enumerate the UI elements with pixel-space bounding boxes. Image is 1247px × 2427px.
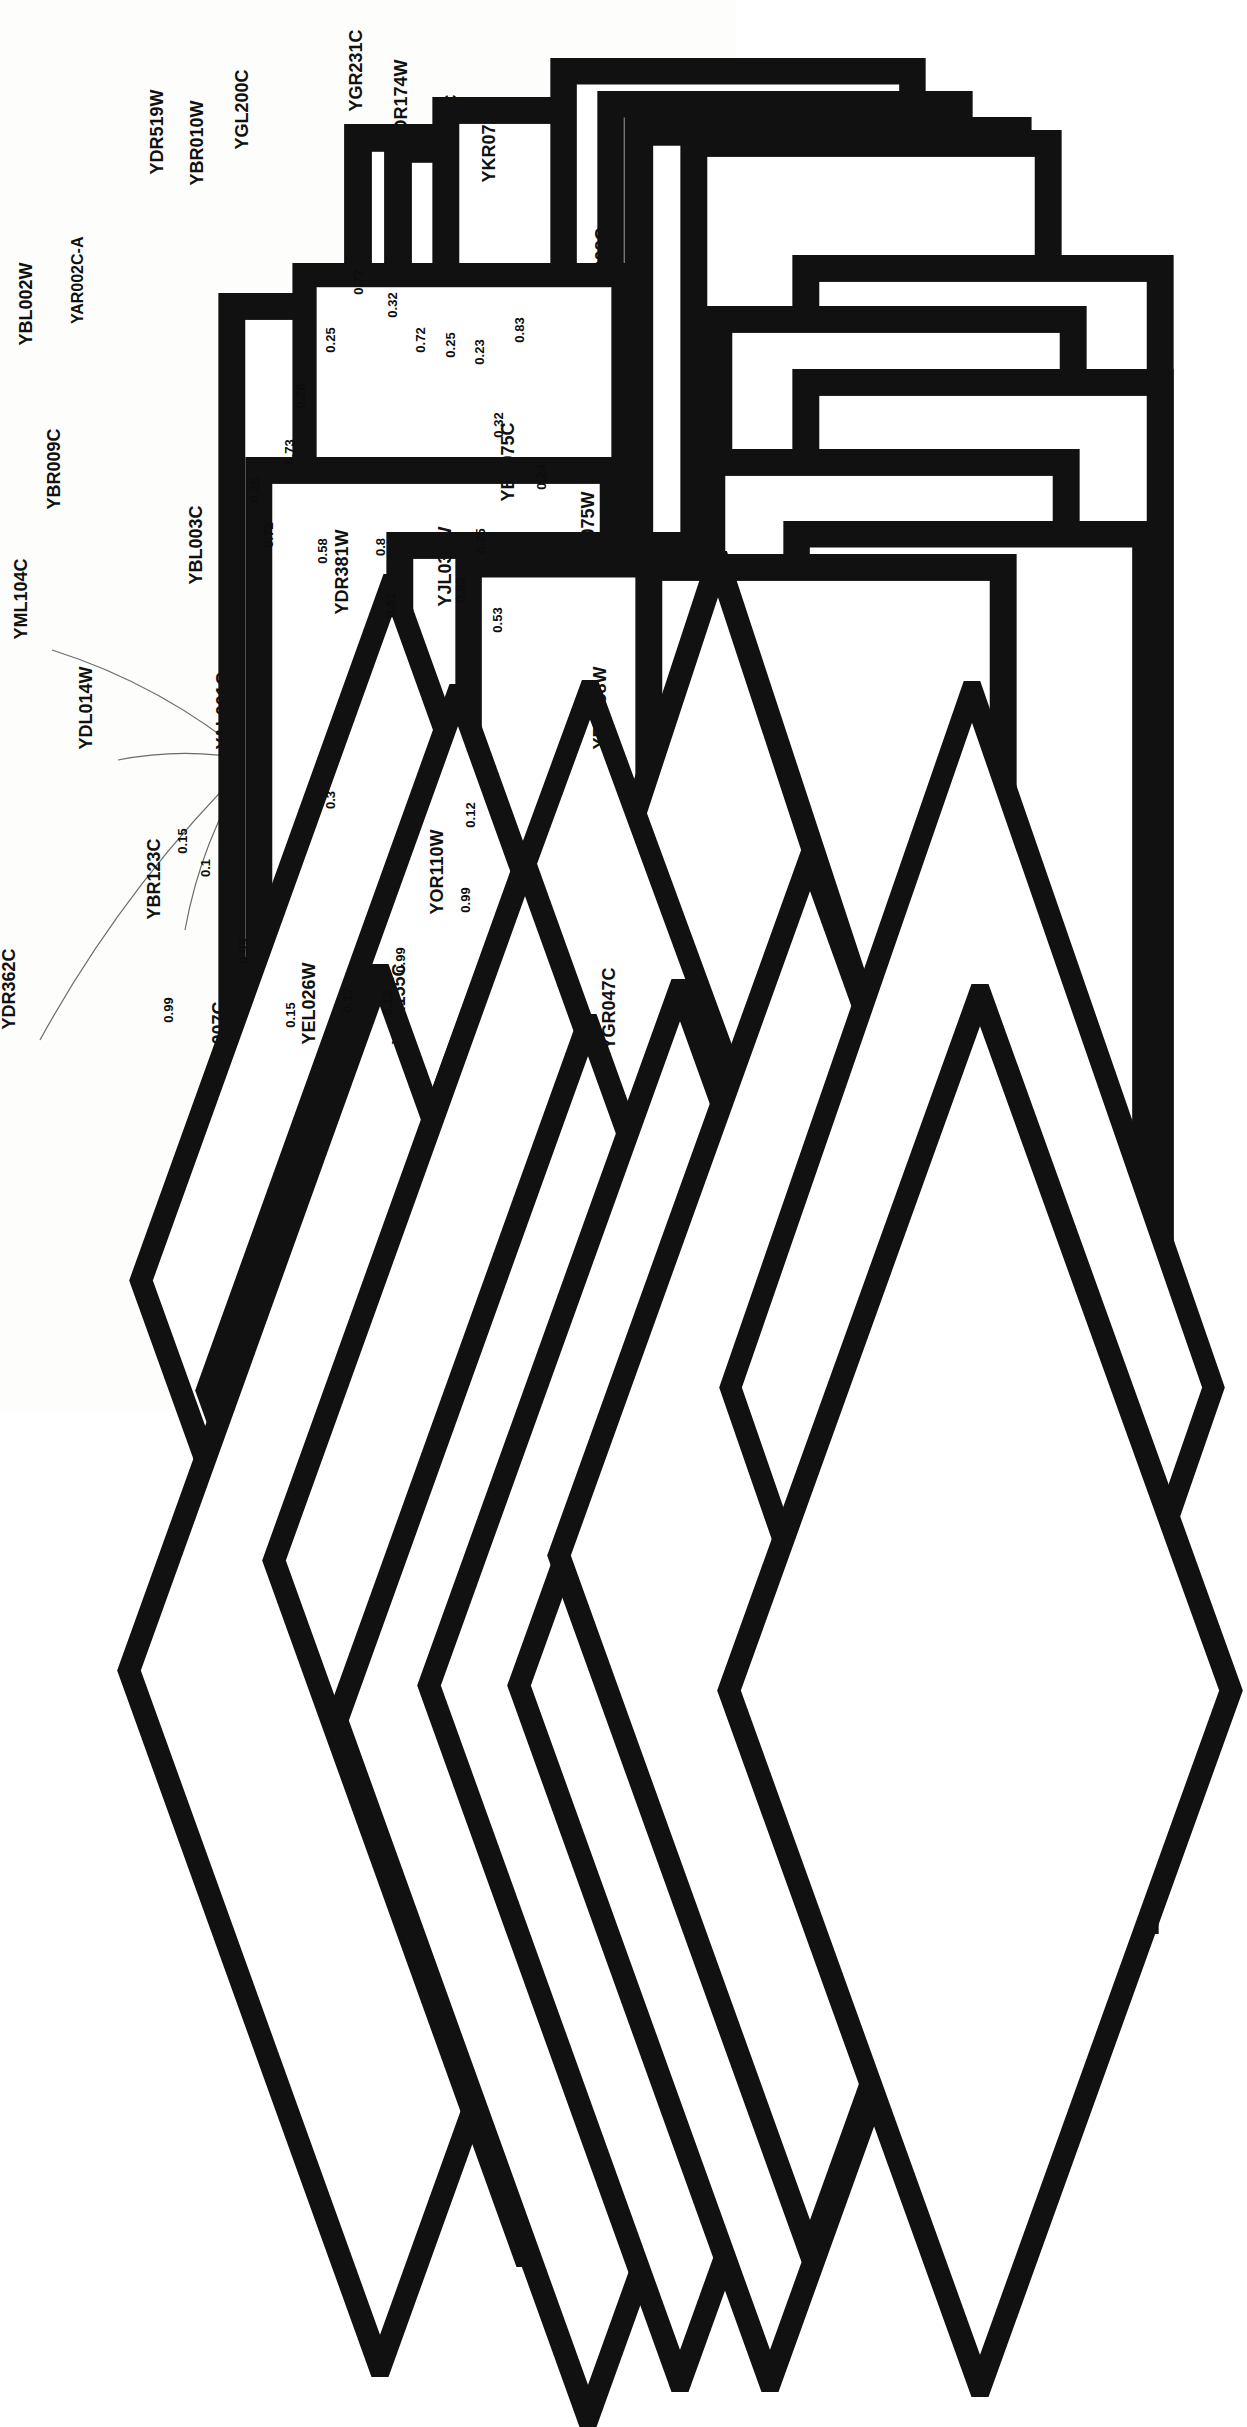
edge-weight-label: 0.83 [453,577,468,602]
edge-weight-label: 0.72 [261,522,276,547]
edge-weight-label: 0.99 [236,938,251,963]
node-ybr009c[interactable]: YBR009C [68,457,102,583]
node-label: YAR002C-A [69,237,87,324]
node-label: YEL026W [299,962,320,1044]
edge-weight-label: 0.25 [323,327,338,352]
node-ybl058w[interactable]: YBL058W [604,681,660,839]
edge-weight-label: 0.77 [351,269,366,294]
node-yor110w[interactable]: YOR110W [442,849,498,1001]
node-label: YBR123C [144,838,165,919]
edge-weight-label: 0.99 [393,947,408,972]
edge-weight-label: 0.73 [282,439,297,464]
node-label: YBL058W [590,666,611,749]
node-yml104c[interactable]: YML104C [24,574,80,726]
node-ygr047c[interactable]: YGR047C [612,984,668,1136]
edge-weight-label: 0.32 [385,292,400,317]
node-label: YIL035C [441,94,462,165]
node-shape-diamond [612,984,1247,2397]
edge-weight-label: 0.99 [458,887,473,912]
edge-weight-label: 0.53 [490,607,505,632]
edge-weight-label: 0.8 [373,538,388,556]
edge-weight-label: 0.15 [283,1002,298,1027]
node-label: YKR072C [479,101,500,182]
edge-weight-label: 0.25 [443,332,458,357]
node-yal001c[interactable]: YAL001C [222,680,282,840]
edge-weight-label: 0.25 [247,477,262,502]
node-label: YDR519W [147,89,168,174]
edge-weight-label: 0.23 [472,339,487,364]
edge-weight-label: 0.12 [380,990,395,1015]
node-ybr010w[interactable]: YBR010W [213,135,247,257]
node-label: YAL001C [213,672,234,749]
edge-weight-label: 0.24 [534,464,549,489]
edge-weight-label: 0.25 [473,528,488,553]
node-label: YOR110W [427,829,448,914]
edge-weight-label: 0.26 [293,383,308,408]
node-label: YBR009C [44,428,65,509]
node-label: YDR174W [391,59,412,144]
edge-weight-label: 0.51 [383,592,398,617]
node-label: YGL200C [232,69,253,149]
node-ydr362c[interactable]: YDR362C [12,964,68,1116]
node-label: YPL007C [209,1001,230,1079]
node-label: YGR231C [346,29,367,111]
edge-weight-label: 0.1 [198,859,213,877]
edge-weight-label: 0.72 [413,327,428,352]
node-label: YBL002W [16,262,37,345]
edge-weight-label: 0.32 [491,412,506,437]
edge-weight-label: 0.15 [175,828,190,853]
edge-weight-label: 0.3 [323,791,338,809]
edge-weight-label: 0.83 [512,317,527,342]
node-ykr072c[interactable]: YKR072C [503,130,537,256]
node-label: YDL014W [76,666,97,749]
edge-weight-label: 0.12 [463,802,478,827]
edge-weight-label: 0.17 [340,987,355,1012]
node-label: YBR010W [187,100,208,185]
node-label: YBL003C [186,505,207,584]
node-label: YDR362C [0,948,20,1029]
node-yar002c-a[interactable]: YAR002C-A [96,263,130,403]
node-ydl014w[interactable]: YDL014W [90,684,146,836]
node-ypl007c[interactable]: YPL007C [220,1014,276,1166]
node-label: YGR047C [599,967,620,1049]
edge-weight-label: 0.99 [161,997,176,1022]
node-ygl200c[interactable]: YGL200C [255,97,289,223]
edge-weight-label: 0.58 [315,538,330,563]
node-label: YML104C [11,558,32,639]
